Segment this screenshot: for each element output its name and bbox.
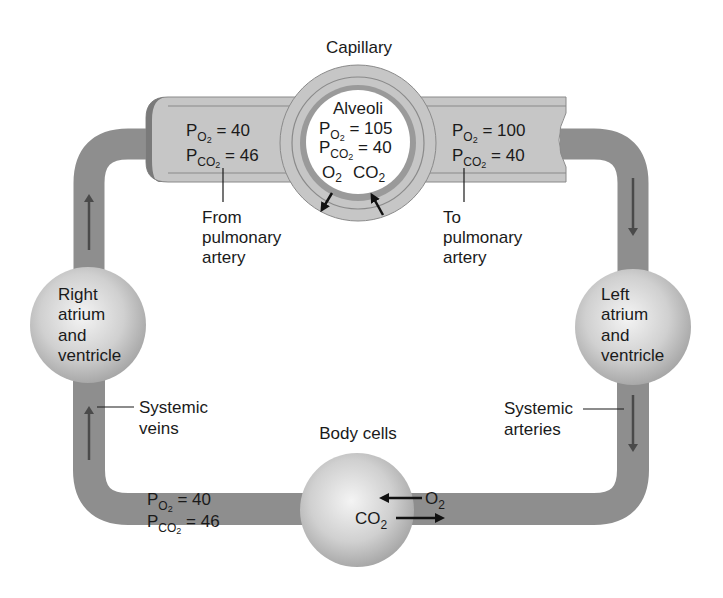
- capillary-left-values: PO2 = 40 PCO2 = 46: [186, 121, 259, 170]
- svg-text:Systemic: Systemic: [139, 398, 208, 417]
- svg-text:arteries: arteries: [504, 420, 561, 439]
- svg-text:From: From: [202, 208, 242, 227]
- body-cells-title: Body cells: [319, 424, 396, 443]
- svg-text:Systemic: Systemic: [504, 399, 573, 418]
- capillary-title: Capillary: [326, 38, 393, 57]
- right-heart: Right atrium and ventricle: [30, 267, 146, 383]
- svg-text:ventricle: ventricle: [601, 346, 664, 365]
- venous-blood-values: PO2 = 40 PCO2 = 46: [147, 490, 220, 536]
- svg-text:and: and: [58, 326, 86, 345]
- svg-text:pulmonary: pulmonary: [443, 228, 523, 247]
- svg-text:pulmonary: pulmonary: [202, 228, 282, 247]
- capillary-right-values: PO2 = 100 PCO2 = 40: [452, 121, 525, 170]
- svg-text:To: To: [443, 208, 461, 227]
- svg-text:PCO2 = 46: PCO2 = 46: [147, 512, 220, 536]
- svg-text:veins: veins: [139, 419, 179, 438]
- svg-text:Right: Right: [58, 285, 98, 304]
- left-heart: Left atrium and ventricle: [575, 269, 691, 385]
- svg-text:atrium: atrium: [601, 305, 648, 324]
- to-pulmonary-artery-callout: To pulmonary artery: [443, 168, 523, 267]
- svg-text:artery: artery: [202, 248, 246, 267]
- svg-text:ventricle: ventricle: [58, 346, 121, 365]
- svg-text:atrium: atrium: [58, 305, 105, 324]
- svg-text:and: and: [601, 326, 629, 345]
- systemic-arteries-callout: Systemic arteries: [504, 399, 624, 439]
- svg-text:artery: artery: [443, 248, 487, 267]
- svg-text:Left: Left: [601, 285, 630, 304]
- gas-exchange-diagram: Capillary PO2 = 40 PCO2 = 46 PO2 = 100 P…: [0, 0, 723, 598]
- from-pulmonary-artery-callout: From pulmonary artery: [202, 168, 282, 267]
- svg-text:Alveoli: Alveoli: [333, 99, 383, 118]
- systemic-veins-callout: Systemic veins: [97, 398, 208, 438]
